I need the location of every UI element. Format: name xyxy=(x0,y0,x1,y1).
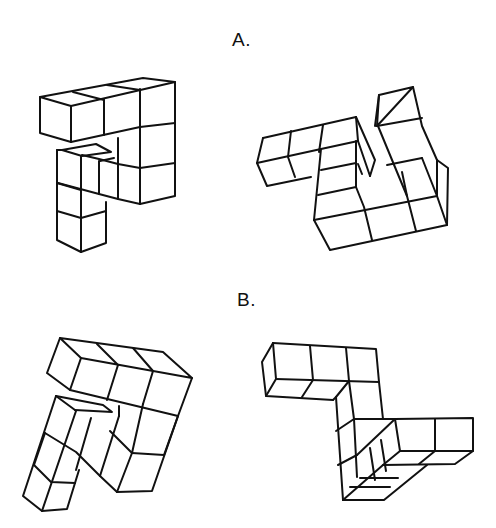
figure-canvas xyxy=(0,0,496,528)
cube-figure-b-right xyxy=(262,343,473,500)
cube-figure-b-left xyxy=(23,338,192,511)
cube-figure-a-left xyxy=(40,78,175,252)
cube-figure-a-right xyxy=(257,87,448,250)
